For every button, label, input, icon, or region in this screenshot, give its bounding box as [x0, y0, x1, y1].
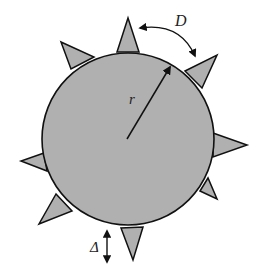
spike-bottom — [121, 227, 143, 260]
spacing-arc-arrow — [140, 27, 195, 56]
spacing-label: D — [174, 12, 187, 29]
spike-right — [213, 133, 247, 157]
spike-top — [117, 18, 139, 52]
height-label: Δ — [89, 239, 99, 255]
sphere-body — [42, 53, 214, 225]
radius-label: r — [129, 91, 135, 107]
spiked-sphere-diagram: r D Δ — [0, 0, 265, 274]
